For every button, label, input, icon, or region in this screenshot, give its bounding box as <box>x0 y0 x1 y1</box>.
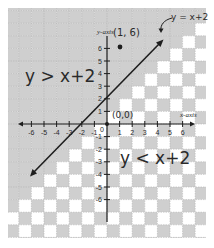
grid-cell <box>31 200 44 213</box>
grid-cell <box>8 86 19 99</box>
grid-cell <box>170 225 183 238</box>
grid-cell <box>82 200 95 213</box>
grid-cell <box>8 162 19 175</box>
grid-cell <box>195 137 206 150</box>
grid-cell <box>19 99 32 112</box>
grid-cell <box>157 200 170 213</box>
grid-cell <box>8 174 19 187</box>
grid-cell <box>69 99 82 112</box>
grid-cell <box>145 48 158 61</box>
grid-cell <box>195 8 206 11</box>
grid-cell <box>107 48 120 61</box>
grid-cell <box>107 86 120 99</box>
grid-cell <box>57 11 70 24</box>
origin-dot <box>105 122 109 126</box>
y-tick-label: -4 <box>96 171 102 178</box>
grid-cell <box>120 225 133 238</box>
grid-cell <box>19 162 32 175</box>
grid-cell <box>44 187 57 200</box>
x-tick-label: 2 <box>130 129 134 136</box>
grid-cell <box>170 187 183 200</box>
grid-cell <box>69 187 82 200</box>
grid-cell <box>120 212 133 225</box>
grid-cell <box>145 74 158 87</box>
grid-cell <box>57 86 70 99</box>
y-tick-label: -6 <box>96 196 102 203</box>
grid-cell <box>82 149 95 162</box>
grid-cell <box>183 48 196 61</box>
grid-cell <box>82 36 95 49</box>
grid-cell <box>107 8 120 11</box>
grid-cell <box>44 99 57 112</box>
grid-cell <box>44 11 57 24</box>
grid-cell <box>82 48 95 61</box>
grid-cell <box>31 225 44 238</box>
grid-cell <box>170 99 183 112</box>
grid-cell <box>157 8 170 11</box>
grid-cell <box>19 212 32 225</box>
grid-cell <box>195 149 206 162</box>
grid-cell <box>145 61 158 74</box>
grid-cell <box>107 200 120 213</box>
grid-cell <box>69 174 82 187</box>
grid-cell <box>8 124 19 137</box>
grid-cell <box>157 48 170 61</box>
grid-cell <box>145 8 158 11</box>
grid-cell <box>145 212 158 225</box>
y-tick-label: 6 <box>98 45 102 52</box>
grid-cell <box>195 187 206 200</box>
origin-label: (0,0) <box>112 110 133 120</box>
grid-cell <box>19 11 32 24</box>
grid-cell <box>82 174 95 187</box>
grid-cell <box>69 212 82 225</box>
grid-cell <box>19 137 32 150</box>
grid-cell <box>157 99 170 112</box>
grid-cell <box>44 162 57 175</box>
grid-cell <box>170 36 183 49</box>
grid-cell <box>19 86 32 99</box>
grid-cell <box>107 11 120 24</box>
y-tick-label: -2 <box>96 146 102 153</box>
grid-cell <box>120 8 133 11</box>
y-tick-label: 3 <box>98 83 102 90</box>
grid-cell <box>8 200 19 213</box>
grid-cell <box>31 174 44 187</box>
grid-cell <box>107 212 120 225</box>
above-region-label: y > x+2 <box>25 66 95 86</box>
grid-cell <box>157 74 170 87</box>
grid-cell <box>132 187 145 200</box>
grid-cell <box>107 137 120 150</box>
grid-cell <box>145 99 158 112</box>
point-label: (1, 6) <box>113 27 140 38</box>
point-1-6 <box>118 45 123 50</box>
grid-cell <box>170 86 183 99</box>
grid-cell <box>183 225 196 238</box>
grid-cell <box>183 174 196 187</box>
grid-cell <box>19 200 32 213</box>
grid-cell <box>183 36 196 49</box>
grid-cell <box>57 48 70 61</box>
grid-cell <box>19 36 32 49</box>
grid-cell <box>183 212 196 225</box>
grid-cell <box>145 23 158 36</box>
grid-cell <box>145 225 158 238</box>
grid-cell <box>107 61 120 74</box>
grid-cell <box>8 187 19 200</box>
grid-cell <box>183 23 196 36</box>
grid-cell <box>57 200 70 213</box>
grid-cell <box>8 36 19 49</box>
grid-cell <box>8 11 19 24</box>
grid-cell <box>57 187 70 200</box>
grid-cell <box>132 225 145 238</box>
grid-cell <box>183 187 196 200</box>
zero-label: 0 <box>100 126 104 133</box>
grid-cell <box>195 36 206 49</box>
grid-cell <box>8 212 19 225</box>
grid-cell <box>44 23 57 36</box>
grid-cell <box>195 74 206 87</box>
grid-cell <box>69 86 82 99</box>
grid-cell <box>107 162 120 175</box>
grid-cell <box>82 212 95 225</box>
grid-cell <box>19 225 32 238</box>
grid-cell <box>57 162 70 175</box>
